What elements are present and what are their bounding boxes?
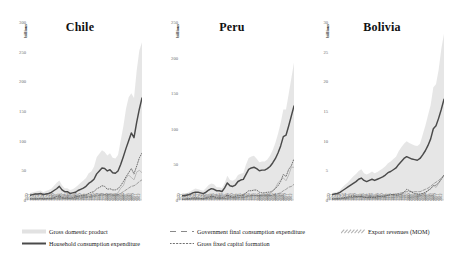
y-tick-label: 100 <box>19 138 26 143</box>
y-tick-label: 30 <box>323 20 328 25</box>
chart-legend: Gross domestic product Household consump… <box>0 226 458 264</box>
legend-swatch-solid-line-icon <box>22 240 46 247</box>
legend-label: Export revenues (MOM) <box>368 228 430 235</box>
y-tick-label: 10 <box>323 138 328 143</box>
legend-item-gross-domestic-product: Gross domestic product <box>22 228 108 235</box>
x-tick-label: 2012 <box>438 194 443 201</box>
y-tick-label: 25 <box>323 49 328 54</box>
legend-label: Gross domestic product <box>49 228 108 235</box>
plot-area-chile <box>30 22 142 200</box>
y-axis-labels-bolivia: 051015202530 <box>306 22 328 200</box>
legend-item-household-consumption-expenditure: Household consumption expenditure <box>22 240 140 247</box>
x-axis-labels-chile: 1970197119721973197419751976197719781979… <box>30 201 142 227</box>
x-tick-label: 2012 <box>288 194 293 201</box>
legend-swatch-band-icon <box>22 228 46 235</box>
legend-item-export-revenues-mom: Export revenues (MOM) <box>341 228 430 235</box>
chart-panel-bolivia: Bolivia billions 051015202530 1970197119… <box>306 8 458 224</box>
y-tick-label: 200 <box>19 79 26 84</box>
x-axis-labels-peru: 1970197119721973197419751976197719781979… <box>182 201 294 227</box>
chart-panel-chile: Chile billions 050100150200250300 197019… <box>4 8 156 224</box>
y-tick-label: 250 <box>19 49 26 54</box>
series-area-gross-domestic-product <box>182 63 294 200</box>
y-tick-label: 15 <box>323 109 328 114</box>
legend-swatch-dotted-line-icon <box>170 240 194 247</box>
legend-swatch-hatch-icon <box>341 228 365 235</box>
legend-label: Household consumption expenditure <box>49 240 140 247</box>
legend-label: Gross fixed capital formation <box>197 240 270 247</box>
figure-root: Chile billions 050100150200250300 197019… <box>0 0 458 264</box>
legend-label: Government final consumption expenditure <box>197 228 305 235</box>
y-tick-label: 250 <box>171 20 178 25</box>
y-tick-label: 150 <box>171 91 178 96</box>
plot-area-peru <box>182 22 294 200</box>
plot-area-bolivia <box>332 22 444 200</box>
y-tick-label: 20 <box>323 79 328 84</box>
y-tick-label: 5 <box>326 168 328 173</box>
series-area-gross-domestic-product <box>30 42 142 200</box>
x-axis-labels-bolivia: 1970197119721973197419751976197719781979… <box>332 201 444 227</box>
legend-item-gross-fixed-capital-formation: Gross fixed capital formation <box>170 240 270 247</box>
y-tick-label: 300 <box>19 20 26 25</box>
series-area-gross-domestic-product <box>332 34 444 200</box>
y-axis-labels-chile: 050100150200250300 <box>4 22 26 200</box>
y-tick-label: 100 <box>171 126 178 131</box>
y-axis-labels-peru: 050100150200250 <box>156 22 178 200</box>
chart-panel-peru: Peru billions 050100150200250 1970197119… <box>156 8 308 224</box>
y-tick-label: 50 <box>21 168 26 173</box>
x-tick-label: 2012 <box>136 194 141 201</box>
y-tick-label: 200 <box>171 55 178 60</box>
legend-item-government-final-consumption-expenditure: Government final consumption expenditure <box>170 228 305 235</box>
y-tick-label: 150 <box>19 109 26 114</box>
y-tick-label: 50 <box>173 162 178 167</box>
legend-swatch-dashed-line-icon <box>170 228 194 235</box>
